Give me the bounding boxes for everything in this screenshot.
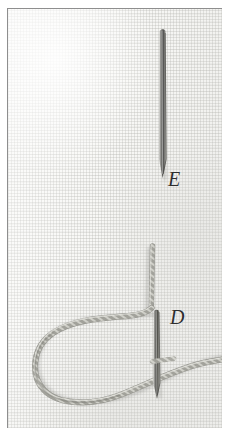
cast-shadows xyxy=(38,33,221,402)
photographic-plate: E D xyxy=(7,8,222,428)
thread-loop xyxy=(34,306,222,402)
plate-label-e: E xyxy=(168,169,180,189)
plate-label-d: D xyxy=(170,307,184,327)
thread-crossing-lower-needle xyxy=(152,359,174,362)
lower-needle xyxy=(153,310,160,399)
figure-root: E D xyxy=(0,0,231,435)
twisted-thread xyxy=(34,246,222,402)
upper-needle xyxy=(159,29,167,178)
needlework-illustration xyxy=(8,9,222,428)
thread-vertical-strand xyxy=(150,246,153,308)
